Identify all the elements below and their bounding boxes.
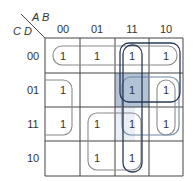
cell-r1-c3: 1 bbox=[163, 84, 169, 96]
karnaugh-map: A B C D 00 01 11 10 00 01 11 10 1 1 1 1 … bbox=[0, 0, 193, 181]
row-header-10: 10 bbox=[27, 152, 39, 164]
cell-r2-c1: 1 bbox=[94, 118, 100, 130]
cell-r1-c0: 1 bbox=[60, 84, 66, 96]
cell-r2-c0: 1 bbox=[60, 118, 66, 130]
cell-r0-c3: 1 bbox=[163, 50, 169, 62]
cell-r2-c3: 1 bbox=[163, 118, 169, 130]
cell-r3-c2: 1 bbox=[129, 152, 135, 164]
cell-r0-c1: 1 bbox=[94, 50, 100, 62]
row-header-11: 11 bbox=[27, 118, 38, 130]
cell-r0-c2: 1 bbox=[129, 50, 135, 62]
col-header-00: 00 bbox=[57, 23, 69, 35]
cell-r2-c2: 1 bbox=[129, 118, 135, 130]
row-variables-label: C D bbox=[13, 25, 32, 37]
col-header-11: 11 bbox=[126, 23, 137, 35]
col-header-10: 10 bbox=[160, 23, 172, 35]
row-header-00: 00 bbox=[27, 50, 39, 62]
col-variables-label: A B bbox=[31, 11, 49, 23]
cell-r1-c2: 1 bbox=[129, 84, 135, 96]
row-header-01: 01 bbox=[27, 84, 39, 96]
col-header-01: 01 bbox=[91, 23, 103, 35]
grid bbox=[21, 14, 183, 176]
cell-r3-c1: 1 bbox=[94, 152, 100, 164]
cell-r0-c0: 1 bbox=[60, 50, 66, 62]
